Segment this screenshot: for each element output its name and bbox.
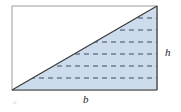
triangle-diagram-svg [0, 0, 181, 112]
height-label: h [165, 47, 171, 58]
figure-container: b h a [0, 0, 181, 112]
corner-artifact-mark: a [13, 99, 17, 106]
base-label: b [83, 94, 89, 105]
